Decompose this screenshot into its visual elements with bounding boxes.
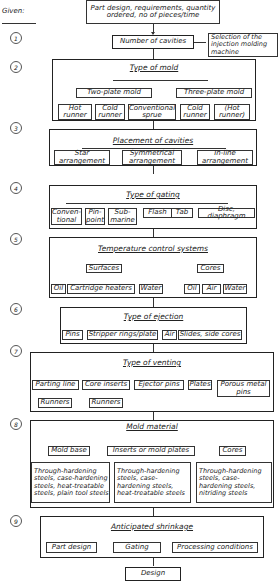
shrinkage-title: Anticipated shrinkage — [40, 522, 264, 531]
three-plate-mold: Three-plate mold — [176, 88, 252, 98]
ejection-option: Stripper rings/plate — [87, 330, 158, 340]
venting-title: Type of venting — [30, 358, 274, 367]
step-number: 3 — [10, 122, 22, 134]
ejection-option: Pins — [62, 330, 83, 340]
ejection-option: Slides, side cores — [178, 330, 242, 340]
shrinkage-option: Gating — [113, 542, 161, 553]
step-number: 5 — [10, 233, 22, 245]
mold-option: Cold runner — [180, 104, 210, 120]
material-detail: Through-hardening steels, case-hardening… — [196, 462, 272, 503]
gating-option: Flash — [143, 208, 172, 218]
material-col: Cores — [219, 446, 246, 456]
temperature-title: Temperature control systems — [49, 244, 257, 253]
start-box: Part design, requirements, quantity orde… — [86, 0, 220, 24]
material-detail: Through-hardening steels, case-hardening… — [31, 462, 110, 503]
design-box: Design — [125, 567, 181, 581]
venting-sub: Runners — [38, 398, 72, 408]
step-number: 1 — [10, 32, 22, 44]
step-number: 4 — [10, 182, 22, 194]
venting-option: Porous metal pins — [217, 380, 270, 397]
given-label: Given: — [2, 7, 25, 15]
venting-sub: Runners — [89, 398, 123, 408]
surface-option: Water — [139, 284, 163, 294]
step-number: 2 — [10, 61, 22, 73]
step-number: 8 — [10, 418, 22, 430]
core-option: Water — [223, 284, 247, 294]
gating-option: Tab — [171, 208, 193, 218]
number-of-cavities-box: Number of cavities — [112, 35, 194, 49]
two-plate-mold: Two-plate mold — [76, 88, 152, 98]
step-number: 7 — [10, 345, 22, 357]
placement-option: In-line arrangement — [197, 150, 253, 165]
mold-option: (Hot runner) — [214, 104, 250, 120]
gating-title: Type of gating — [49, 190, 257, 199]
machine-selection-box: Selection of the injection molding machi… — [208, 33, 278, 57]
placement-option: Symmetrical arrangement — [122, 150, 182, 165]
mold-option: Hot runner — [58, 104, 92, 120]
venting-option: Parting line — [32, 380, 79, 390]
surface-option: Oil — [51, 284, 66, 294]
shrinkage-option: Processing conditions — [172, 542, 258, 553]
material-title: Mold material — [30, 422, 274, 431]
shrinkage-option: Part design — [46, 542, 97, 553]
ejection-option: Air — [162, 330, 177, 340]
gating-option: Disc, diaphragm — [198, 208, 255, 218]
core-option: Oil — [184, 284, 200, 294]
material-detail: Through-hardening steels, case-hardening… — [114, 462, 191, 503]
divider — [2, 23, 36, 24]
material-col: Mold base — [48, 446, 90, 456]
material-col: Inserts or mold plates — [107, 446, 195, 456]
mold-option: Cold runner — [95, 104, 125, 120]
gating-option: Sub-marine — [108, 208, 137, 225]
core-option: Air — [202, 284, 221, 294]
venting-option: Ejector pins — [134, 380, 184, 390]
cores-box: Cores — [197, 264, 224, 273]
placement-option: Star arrangement — [54, 150, 110, 165]
step-number: 9 — [10, 515, 22, 527]
step-number: 6 — [10, 303, 22, 315]
surfaces-box: Surfaces — [86, 264, 122, 273]
surface-option: Cartridge heaters — [67, 284, 135, 294]
placement-title: Placement of cavities — [49, 136, 257, 145]
venting-option: Plates — [188, 380, 212, 390]
ejection-title: Type of ejection — [60, 312, 247, 321]
mold-option: Conventional sprue — [128, 104, 176, 120]
type-of-mold-title: Type of mold — [52, 63, 256, 72]
venting-option: Core inserts — [82, 380, 130, 390]
gating-option: Pin-point — [85, 208, 105, 225]
gating-option: Conven-tional — [51, 208, 82, 225]
